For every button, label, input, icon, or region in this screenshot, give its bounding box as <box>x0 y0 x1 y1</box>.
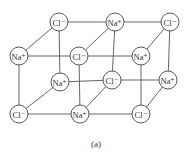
ion-label: Cl⁻ <box>52 18 65 28</box>
sodium-ion: Na⁺ <box>106 13 124 31</box>
chloride-ion: Cl⁻ <box>50 13 68 31</box>
chloride-ion: Cl⁻ <box>132 105 150 123</box>
ion-label: Cl⁻ <box>105 76 118 86</box>
ion-label: Cl⁻ <box>12 110 25 120</box>
chloride-ion: Cl⁻ <box>103 71 121 89</box>
nacl-lattice-diagram: Cl⁻Na⁺Cl⁻Na⁺Cl⁻Na⁺Na⁺Cl⁻Na⁺Cl⁻Na⁺Cl⁻ (a) <box>0 0 192 157</box>
sodium-ion: Na⁺ <box>10 47 28 65</box>
chloride-ion: Cl⁻ <box>10 105 28 123</box>
sodium-ion: Na⁺ <box>132 47 150 65</box>
sodium-ion: Na⁺ <box>71 105 89 123</box>
atoms-layer: Cl⁻Na⁺Cl⁻Na⁺Cl⁻Na⁺Na⁺Cl⁻Na⁺Cl⁻Na⁺Cl⁻ <box>10 13 179 123</box>
ion-label: Cl⁻ <box>72 52 85 62</box>
ion-label: Na⁺ <box>73 110 88 120</box>
sodium-ion: Na⁺ <box>159 71 177 89</box>
ion-label: Na⁺ <box>12 52 27 62</box>
chloride-ion: Cl⁻ <box>161 13 179 31</box>
figure-caption: (a) <box>91 139 101 149</box>
chloride-ion: Cl⁻ <box>70 47 88 65</box>
sodium-ion: Na⁺ <box>51 73 69 91</box>
ion-label: Cl⁻ <box>134 110 147 120</box>
bonds-layer <box>19 22 170 114</box>
ion-label: Na⁺ <box>134 52 149 62</box>
ion-label: Na⁺ <box>53 78 68 88</box>
ion-label: Na⁺ <box>161 76 176 86</box>
ion-label: Cl⁻ <box>163 18 176 28</box>
ion-label: Na⁺ <box>108 18 123 28</box>
